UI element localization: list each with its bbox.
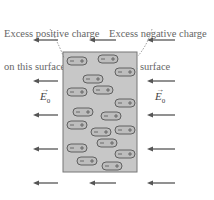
arrow-left-icon <box>33 79 39 84</box>
vector-arrow-icon: → <box>156 85 164 94</box>
dipole-molecule <box>115 126 135 134</box>
dipole-molecule <box>97 139 117 147</box>
dipole-molecule <box>67 57 87 65</box>
dielectric-diagram <box>0 0 214 200</box>
field-label-left: → E0 <box>40 90 50 105</box>
dipole-molecule <box>98 55 118 63</box>
dipole-molecule <box>73 108 93 116</box>
arrow-left-icon <box>147 113 153 118</box>
arrow-left-icon <box>33 113 39 118</box>
dipole-molecule <box>115 99 135 107</box>
dipole-molecule <box>67 121 87 129</box>
dipole-molecule <box>91 128 111 136</box>
arrow-left-icon <box>147 79 153 84</box>
dipole-molecule <box>101 112 121 120</box>
arrow-left-icon <box>147 181 153 186</box>
dipole-molecule <box>115 68 135 76</box>
arrow-left-icon <box>33 38 39 43</box>
dipole-molecule <box>115 150 135 158</box>
dipole-molecule <box>67 144 87 152</box>
vector-arrow-icon: → <box>41 85 49 94</box>
arrow-left-icon <box>33 181 39 186</box>
arrow-left-icon <box>147 38 153 43</box>
arrow-left-icon <box>89 38 95 43</box>
arrow-left-icon <box>147 147 153 152</box>
dipole-molecule <box>83 75 103 83</box>
dipole-molecule <box>77 157 97 165</box>
dipole-molecule <box>93 86 113 94</box>
negative-surface-pointer <box>138 29 152 56</box>
dipole-molecule <box>102 162 122 170</box>
field-label-right: → E0 <box>155 90 165 105</box>
positive-surface-pointer <box>50 29 64 58</box>
arrow-left-icon <box>89 181 95 186</box>
arrow-left-icon <box>33 147 39 152</box>
dipole-molecule <box>67 88 87 96</box>
